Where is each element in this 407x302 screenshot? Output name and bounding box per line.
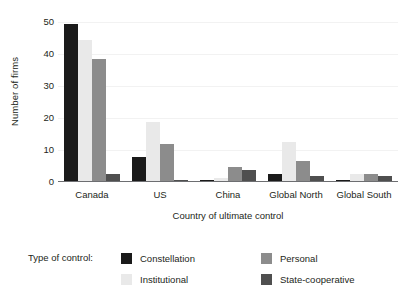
x-axis-tick-label: Global South [330, 188, 398, 202]
plot-area [58, 22, 398, 182]
legend-swatch-icon [121, 274, 132, 285]
legend-swatch-icon [261, 253, 272, 264]
legend-items: ConstellationPersonalInstitutionalState-… [121, 248, 391, 290]
y-axis-title-text: Number of firms [10, 56, 21, 125]
bar [228, 167, 242, 181]
legend-title: Type of control: [28, 252, 93, 263]
bar [282, 142, 296, 181]
bar [106, 174, 120, 181]
x-axis-tick-label: Global North [262, 188, 330, 202]
bar [146, 122, 160, 181]
bar [78, 40, 92, 181]
y-axis-tick-labels: 01020304050 [30, 22, 54, 182]
y-axis-title: Number of firms [8, 0, 22, 182]
legend-label: Constellation [140, 253, 195, 264]
bar [364, 174, 378, 181]
x-axis-tick-label: Canada [58, 188, 126, 202]
x-axis-title-text: Country of ultimate control [173, 210, 284, 221]
legend-item[interactable]: Personal [261, 253, 391, 264]
bar-group [330, 22, 398, 181]
x-axis-title: Country of ultimate control [58, 210, 398, 221]
bar [268, 174, 282, 181]
x-axis-tick-labels: CanadaUSChinaGlobal NorthGlobal South [58, 188, 398, 202]
bar-groups [58, 22, 398, 181]
bar-chart-figure: Number of firms 01020304050 CanadaUSChin… [0, 0, 407, 302]
legend-item[interactable]: Constellation [121, 253, 261, 264]
y-axis-tick-label: 10 [34, 145, 54, 155]
y-axis-tick-label: 40 [34, 49, 54, 59]
bar-group [194, 22, 262, 181]
x-axis-tick-label: US [126, 188, 194, 202]
bar [242, 170, 256, 181]
bar-group [58, 22, 126, 181]
y-axis-tick-label: 50 [34, 17, 54, 27]
legend-label: State-cooperative [280, 274, 354, 285]
legend: Type of control: ConstellationPersonalIn… [28, 248, 388, 294]
bar [92, 59, 106, 181]
bar-group [262, 22, 330, 181]
bar [132, 157, 146, 181]
bar [296, 161, 310, 181]
legend-item[interactable]: State-cooperative [261, 274, 391, 285]
legend-swatch-icon [121, 253, 132, 264]
x-axis-tick-label: China [194, 188, 262, 202]
legend-label: Personal [280, 253, 318, 264]
bar [160, 144, 174, 181]
bar [64, 24, 78, 181]
y-axis-tick-label: 20 [34, 113, 54, 123]
legend-swatch-icon [261, 274, 272, 285]
x-axis-line [58, 181, 398, 182]
legend-label: Institutional [140, 274, 188, 285]
y-axis-tick-label: 0 [34, 177, 54, 187]
legend-item[interactable]: Institutional [121, 274, 261, 285]
y-axis-tick-label: 30 [34, 81, 54, 91]
bar [350, 174, 364, 181]
bar-group [126, 22, 194, 181]
